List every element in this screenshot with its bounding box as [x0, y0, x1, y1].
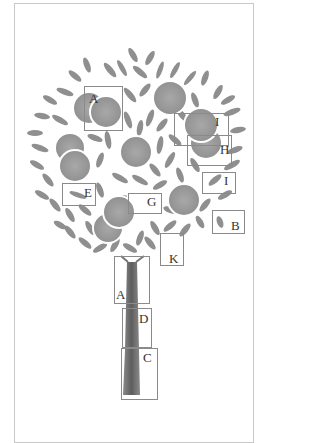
label-box-c — [121, 348, 158, 400]
label-i-upper: I — [215, 115, 219, 128]
label-e: E — [84, 186, 92, 199]
label-a-trunk: A — [116, 288, 125, 301]
label-g: G — [147, 195, 156, 208]
label-i-lower: I — [224, 174, 228, 187]
label-h: H — [220, 143, 229, 156]
label-k: K — [169, 252, 178, 265]
label-box-g — [128, 193, 162, 214]
label-a-top: A — [89, 92, 98, 105]
label-box-b — [212, 210, 245, 234]
label-c: C — [143, 351, 152, 364]
label-d: D — [139, 312, 148, 325]
label-b: B — [231, 219, 240, 232]
label-box-i-lower — [202, 172, 236, 194]
